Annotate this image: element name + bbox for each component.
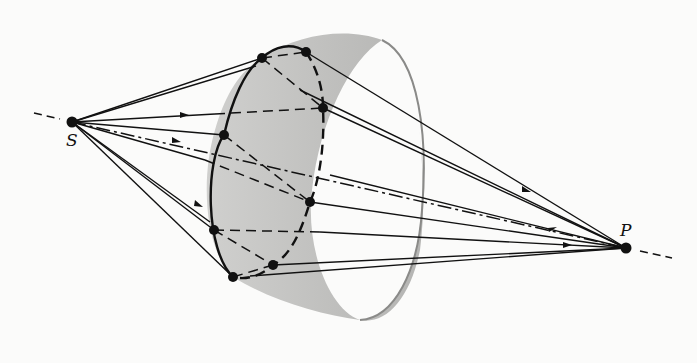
diagram-svg (0, 0, 697, 363)
source-point (67, 117, 78, 128)
diagram-canvas: S P (0, 0, 697, 363)
label-p: P (620, 220, 631, 240)
curved-surface (207, 34, 424, 321)
label-s: S (66, 130, 78, 150)
target-point (621, 243, 632, 254)
